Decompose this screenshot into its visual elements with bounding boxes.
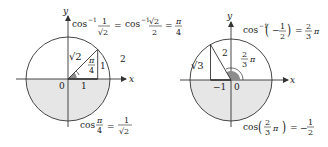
- hypotenuse-label: √2: [69, 51, 82, 62]
- cos-func: cos: [243, 25, 258, 35]
- adjacent-label: 1: [81, 81, 87, 91]
- right-diagram: y x 0 −1 2 √3 2 3 π cos −1 ( − 1 2 ) = 2…: [180, 11, 320, 137]
- frac-num: 1: [280, 22, 285, 31]
- right-paren: ): [287, 21, 291, 38]
- x-axis-label: x: [129, 74, 134, 84]
- frac-num: π: [175, 17, 182, 26]
- frac-num: 2: [265, 118, 270, 127]
- angle-label-den: 3: [242, 60, 247, 69]
- equals: =: [165, 21, 173, 31]
- cos-func: cos: [243, 122, 258, 132]
- frac-num: 2: [306, 22, 311, 31]
- frac-den: √2: [119, 127, 129, 136]
- frac-den: √2: [98, 28, 108, 37]
- angle-label-den: 4: [89, 66, 94, 75]
- frac-den: 2: [152, 28, 157, 37]
- frac-num: 1: [124, 116, 129, 125]
- left-bottom-equation: cos π 4 = 1 √2: [80, 116, 132, 136]
- frac-den: 3: [306, 32, 311, 41]
- equals: =: [295, 26, 303, 36]
- cos-func: cos: [72, 19, 87, 29]
- left-top-equation: cos −1 1 √2 = cos −1 √2 2 = π 4: [72, 16, 182, 37]
- equals: =: [290, 123, 298, 133]
- left-paren: (: [258, 118, 262, 135]
- frac-den: 3: [265, 128, 270, 137]
- left-diagram: y x 0 1 1 √2 2 π 4 cos −1 1 √2 = cos −1 …: [16, 6, 182, 136]
- neg-one-label: −1: [213, 82, 226, 92]
- cos-func: cos: [80, 120, 95, 130]
- side-label: 2: [120, 54, 126, 64]
- frac-den: 4: [97, 126, 102, 135]
- left-paren: (: [265, 21, 269, 38]
- cos-func: cos: [125, 19, 140, 29]
- inverse-cosine-diagrams: y x 0 1 1 √2 2 π 4 cos −1 1 √2 = cos −1 …: [0, 0, 328, 147]
- angle-arrow-icon: [76, 71, 79, 75]
- opposite-label: 1: [100, 61, 106, 71]
- pi-symbol: π: [313, 27, 320, 36]
- hypotenuse-label: 2: [222, 48, 228, 58]
- angle-label-num: π: [88, 56, 95, 65]
- frac-num: 1: [102, 17, 107, 26]
- frac-den: 2: [308, 128, 313, 137]
- y-axis-label: y: [226, 11, 233, 21]
- minus-sign: −: [272, 25, 280, 35]
- right-bottom-equation: cos ( 2 3 π ) = − 1 2: [243, 118, 314, 137]
- equals: =: [114, 21, 122, 31]
- origin-label: 0: [234, 82, 240, 92]
- minus-sign: −: [300, 123, 308, 133]
- hypotenuse-line: [211, 45, 232, 81]
- pi-symbol: π: [272, 124, 279, 133]
- frac-num: 1: [308, 118, 313, 127]
- x-axis-label: x: [290, 75, 295, 85]
- opposite-label: √3: [191, 60, 204, 71]
- frac-den: 4: [176, 28, 181, 37]
- origin-label: 0: [59, 81, 65, 91]
- equals: =: [107, 122, 115, 132]
- frac-den: 2: [280, 32, 285, 41]
- inverse-exp: −1: [88, 16, 97, 23]
- angle-label-pi: π: [249, 55, 256, 64]
- frac-num: π: [96, 116, 103, 125]
- right-top-equation: cos −1 ( − 1 2 ) = 2 3 π: [243, 21, 320, 41]
- y-axis-label: y: [62, 6, 69, 16]
- angle-label-num: 2: [242, 50, 247, 59]
- frac-num: √2: [149, 17, 159, 26]
- right-paren: ): [282, 118, 286, 135]
